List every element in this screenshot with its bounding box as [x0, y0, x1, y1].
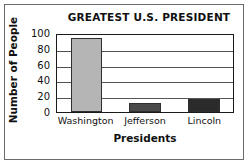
- bar-slot: [57, 35, 116, 112]
- bar-washington: [71, 38, 103, 112]
- bar-chart-figure: GREATEST U.S. PRESIDENT Number of People…: [0, 0, 248, 164]
- x-axis-tick-label: Jefferson: [115, 115, 174, 126]
- y-axis-title-container: Number of People: [5, 22, 21, 118]
- y-axis-tick-label: 60: [20, 61, 50, 71]
- bar-lincoln: [188, 99, 220, 112]
- chart-title: GREATEST U.S. PRESIDENT: [60, 11, 238, 23]
- bar-slot: [174, 35, 233, 112]
- y-axis-tick-label: 0: [20, 108, 50, 118]
- bar-jefferson: [129, 103, 161, 112]
- y-axis-title: Number of People: [7, 17, 19, 123]
- x-axis-title: Presidents: [56, 132, 234, 144]
- y-axis-tick-label: 40: [20, 76, 50, 86]
- y-axis-tick-label: 20: [20, 92, 50, 102]
- y-axis-tick-labels: 100806040200: [20, 28, 50, 118]
- bar-series: [57, 35, 233, 112]
- x-axis-tick-label: Washington: [56, 115, 115, 126]
- bar-slot: [116, 35, 175, 112]
- plot-area: [56, 34, 234, 113]
- x-axis-tick-label: Lincoln: [175, 115, 234, 126]
- y-axis-tick-label: 100: [20, 29, 50, 39]
- x-axis-tick-labels: WashingtonJeffersonLincoln: [56, 115, 234, 126]
- y-axis-tick-label: 80: [20, 45, 50, 55]
